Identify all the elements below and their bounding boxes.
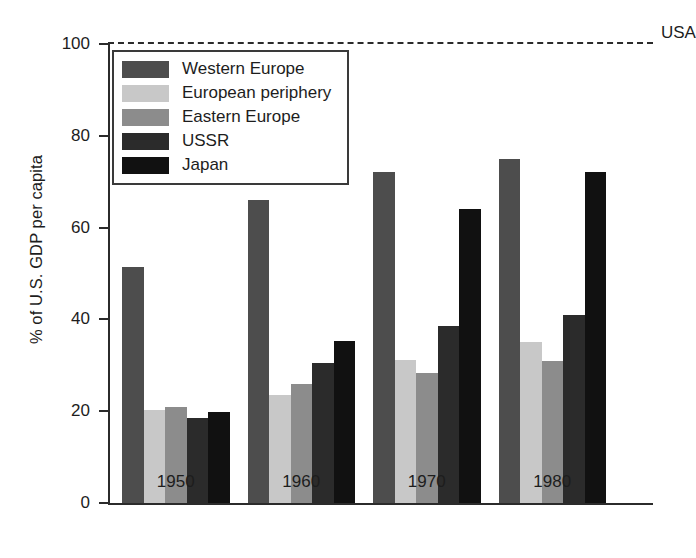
y-axis-title: % of U.S. GDP per capita (27, 140, 46, 360)
legend-item: Western Europe (122, 57, 331, 81)
legend-swatch-icon (122, 61, 169, 78)
x-label-1950: 1950 (157, 472, 195, 492)
bar-1970-japan (459, 209, 481, 503)
y-tick-label: 40 (71, 309, 90, 329)
bar-1950-western-europe (122, 267, 144, 503)
y-tick-20: 20 (99, 410, 110, 412)
x-label-1960: 1960 (282, 472, 320, 492)
x-label-1970: 1970 (408, 472, 446, 492)
legend-label: Eastern Europe (182, 107, 300, 127)
legend: Western EuropeEuropean peripheryEastern … (112, 50, 349, 185)
legend-item: Japan (122, 153, 331, 177)
x-label-1980: 1980 (533, 472, 571, 492)
usa-reference-line (108, 42, 653, 44)
y-axis-line (108, 44, 110, 505)
bar-1980-japan (585, 172, 607, 502)
legend-label: Japan (182, 155, 228, 175)
y-tick-label: 80 (71, 126, 90, 146)
legend-label: USSR (182, 131, 229, 151)
legend-swatch-icon (122, 133, 169, 150)
bar-1950-japan (208, 412, 230, 503)
legend-item: Eastern Europe (122, 105, 331, 129)
legend-item: USSR (122, 129, 331, 153)
y-tick-label: 100 (62, 34, 90, 54)
y-tick-80: 80 (99, 135, 110, 137)
legend-label: Western Europe (182, 59, 305, 79)
x-axis-line (108, 503, 653, 505)
legend-swatch-icon (122, 85, 169, 102)
bar-1960-western-europe (248, 200, 270, 503)
usa-reference-label: USA (661, 23, 696, 43)
bar-1970-western-europe (373, 172, 395, 502)
y-tick-label: 20 (71, 401, 90, 421)
y-tick-label: 0 (81, 493, 90, 513)
legend-swatch-icon (122, 109, 169, 126)
legend-swatch-icon (122, 157, 169, 174)
legend-item: European periphery (122, 81, 331, 105)
y-tick-40: 40 (99, 318, 110, 320)
bar-1960-japan (334, 341, 356, 502)
y-tick-60: 60 (99, 227, 110, 229)
y-tick-label: 60 (71, 218, 90, 238)
y-tick-0: 0 (99, 502, 110, 504)
bar-1980-western-europe (499, 159, 521, 503)
legend-label: European periphery (182, 83, 331, 103)
